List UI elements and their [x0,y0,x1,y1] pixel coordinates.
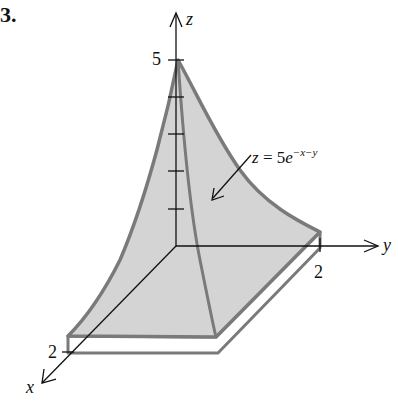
x-tick-label: 2 [48,343,57,361]
equation-exponent: −x−y [293,146,318,158]
equation-lhs: z [252,148,259,167]
surface-diagram: 3. z 5 y 2 x 2 z = 5e−x−y [0,0,398,402]
equation-equals: = 5 [259,148,286,167]
equation-base: e [285,148,293,167]
z-tick-label: 5 [152,50,161,68]
z-axis-label: z [186,10,193,28]
problem-number: 3. [0,2,17,28]
surface-region [68,60,320,337]
surface-equation: z = 5e−x−y [252,146,317,168]
x-axis-label: x [26,378,34,396]
surface-plot-svg [0,0,398,402]
y-axis-label: y [383,236,391,254]
y-tick-label: 2 [314,263,323,281]
